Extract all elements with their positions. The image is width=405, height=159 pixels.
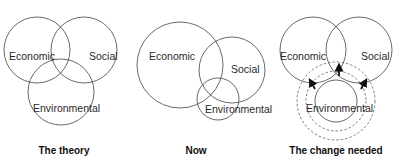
panel-theory: Economic Social Environmental The theory <box>4 17 118 156</box>
social-label: Social <box>89 50 118 62</box>
social-label: Social <box>361 50 390 62</box>
economic-label: Economic <box>149 50 195 62</box>
economic-label: Economic <box>9 50 55 62</box>
economic-label: Economic <box>280 50 326 62</box>
panel-now: Economic Social Environmental Now <box>137 22 272 156</box>
environmental-label: Environmental <box>306 102 373 114</box>
environmental-label: Environmental <box>33 102 100 114</box>
panel-change-needed: Economic Social Environmental The change… <box>280 17 392 156</box>
social-label: Social <box>231 63 260 75</box>
caption-change-needed: The change needed <box>289 145 382 156</box>
environmental-label: Environmental <box>205 103 272 115</box>
caption-now: Now <box>185 145 206 156</box>
venn-diagrams: Economic Social Environmental The theory… <box>0 0 405 159</box>
environmental-circle <box>28 59 94 125</box>
environmental-circle <box>315 80 357 122</box>
caption-theory: The theory <box>38 145 90 156</box>
